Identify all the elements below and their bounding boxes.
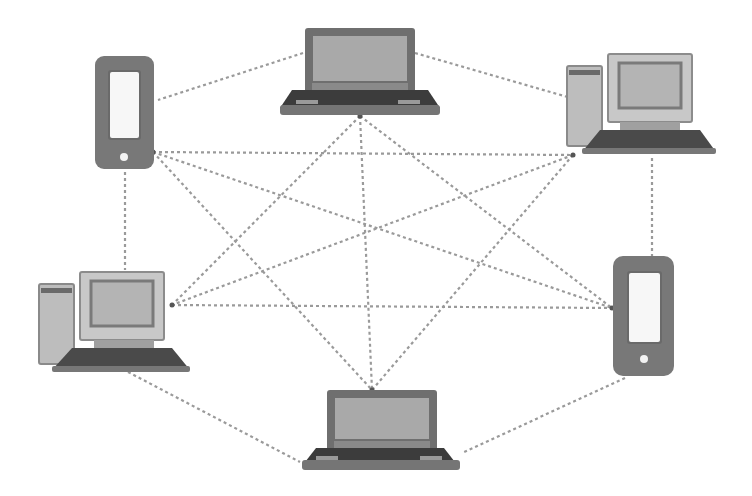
link-phone-top-left-desktop-top-right [153, 152, 573, 155]
link-laptop-top-phone-top-left [158, 53, 303, 100]
link-laptop-top-desktop-bottom-left [172, 116, 360, 305]
desktop-icon [39, 272, 190, 372]
desktop-icon [567, 54, 716, 154]
smartphone-icon [613, 256, 674, 376]
link-desktop-top-right-desktop-bottom-left [172, 155, 573, 305]
link-laptop-top-laptop-bottom [360, 116, 372, 390]
link-phone-top-left-phone-right [153, 152, 612, 308]
smartphone-icon [95, 56, 154, 169]
link-desktop-bottom-left-laptop-bottom [128, 372, 300, 462]
network-diagram: Peer-to-peer mesh network [0, 0, 752, 496]
link-laptop-top-desktop-top-right [415, 53, 578, 100]
link-desktop-bottom-left-phone-right [172, 305, 612, 308]
laptop-icon [280, 28, 440, 115]
diagram-canvas [0, 0, 752, 496]
laptop-icon [302, 390, 460, 470]
link-phone-right-laptop-bottom [462, 378, 625, 453]
link-desktop-top-right-laptop-bottom [372, 155, 573, 390]
